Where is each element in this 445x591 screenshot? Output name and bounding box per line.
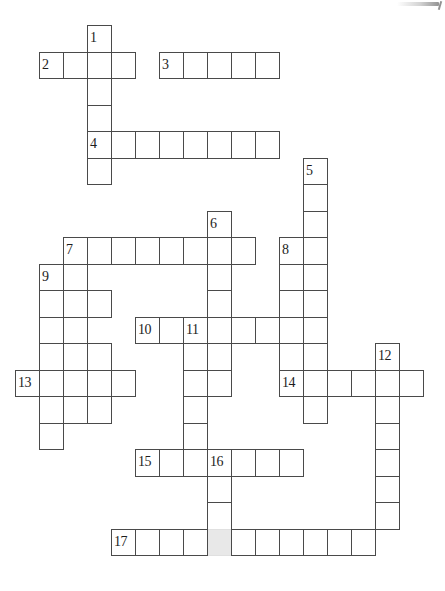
crossword-cell[interactable] xyxy=(63,52,88,80)
crossword-cell[interactable] xyxy=(183,343,208,371)
crossword-cell[interactable] xyxy=(207,529,232,557)
crossword-cell[interactable] xyxy=(231,317,256,345)
crossword-cell[interactable] xyxy=(375,476,400,504)
crossword-cell-start-8[interactable]: 8 xyxy=(279,237,304,265)
crossword-cell[interactable] xyxy=(207,502,232,530)
crossword-cell[interactable] xyxy=(159,449,184,477)
crossword-cell[interactable] xyxy=(231,131,256,159)
crossword-cell[interactable] xyxy=(207,237,232,265)
crossword-cell[interactable] xyxy=(375,449,400,477)
crossword-cell-start-10[interactable]: 10 xyxy=(135,317,160,345)
crossword-cell[interactable] xyxy=(39,343,64,371)
crossword-cell[interactable] xyxy=(135,529,160,557)
crossword-cell[interactable] xyxy=(231,529,256,557)
crossword-cell[interactable] xyxy=(231,449,256,477)
crossword-cell[interactable] xyxy=(39,290,64,318)
crossword-cell[interactable] xyxy=(159,529,184,557)
crossword-cell[interactable] xyxy=(63,264,88,292)
crossword-cell[interactable] xyxy=(303,370,328,398)
crossword-cell[interactable] xyxy=(303,290,328,318)
crossword-cell[interactable] xyxy=(111,237,136,265)
crossword-cell[interactable] xyxy=(375,423,400,451)
crossword-cell[interactable] xyxy=(63,317,88,345)
crossword-cell-start-5[interactable]: 5 xyxy=(303,158,328,186)
crossword-cell[interactable] xyxy=(207,290,232,318)
crossword-cell[interactable] xyxy=(63,396,88,424)
crossword-cell-start-9[interactable]: 9 xyxy=(39,264,64,292)
crossword-cell-start-4[interactable]: 4 xyxy=(87,131,112,159)
crossword-cell[interactable] xyxy=(279,264,304,292)
crossword-cell-start-14[interactable]: 14 xyxy=(279,370,304,398)
crossword-cell[interactable] xyxy=(303,237,328,265)
crossword-cell[interactable] xyxy=(207,476,232,504)
crossword-cell[interactable] xyxy=(183,237,208,265)
crossword-cell[interactable] xyxy=(39,423,64,451)
crossword-cell[interactable] xyxy=(231,52,256,80)
crossword-cell[interactable] xyxy=(303,343,328,371)
crossword-cell-start-15[interactable]: 15 xyxy=(135,449,160,477)
crossword-cell[interactable] xyxy=(279,317,304,345)
crossword-cell[interactable] xyxy=(39,370,64,398)
crossword-cell[interactable] xyxy=(183,396,208,424)
crossword-cell[interactable] xyxy=(87,78,112,106)
crossword-cell[interactable] xyxy=(231,237,256,265)
crossword-cell-start-12[interactable]: 12 xyxy=(375,343,400,371)
crossword-cell[interactable] xyxy=(207,343,232,371)
crossword-cell[interactable] xyxy=(303,264,328,292)
crossword-cell[interactable] xyxy=(207,317,232,345)
crossword-cell[interactable] xyxy=(63,290,88,318)
crossword-cell[interactable] xyxy=(303,184,328,212)
crossword-cell-start-11[interactable]: 11 xyxy=(183,317,208,345)
crossword-cell[interactable] xyxy=(87,52,112,80)
crossword-cell[interactable] xyxy=(207,370,232,398)
crossword-cell[interactable] xyxy=(87,158,112,186)
crossword-cell[interactable] xyxy=(351,529,376,557)
crossword-cell[interactable] xyxy=(279,529,304,557)
crossword-cell[interactable] xyxy=(135,131,160,159)
crossword-cell[interactable] xyxy=(303,396,328,424)
crossword-cell[interactable] xyxy=(87,290,112,318)
crossword-cell[interactable] xyxy=(39,317,64,345)
crossword-cell[interactable] xyxy=(327,529,352,557)
crossword-cell[interactable] xyxy=(399,370,424,398)
crossword-cell[interactable] xyxy=(207,131,232,159)
crossword-cell[interactable] xyxy=(111,370,136,398)
crossword-cell[interactable] xyxy=(159,317,184,345)
crossword-cell[interactable] xyxy=(375,396,400,424)
crossword-cell[interactable] xyxy=(207,264,232,292)
crossword-cell[interactable] xyxy=(255,131,280,159)
crossword-cell[interactable] xyxy=(159,131,184,159)
crossword-cell[interactable] xyxy=(303,211,328,239)
crossword-cell[interactable] xyxy=(87,370,112,398)
crossword-cell[interactable] xyxy=(375,502,400,530)
crossword-cell[interactable] xyxy=(111,131,136,159)
crossword-cell[interactable] xyxy=(183,449,208,477)
crossword-cell[interactable] xyxy=(159,237,184,265)
crossword-cell[interactable] xyxy=(135,237,160,265)
crossword-cell[interactable] xyxy=(279,449,304,477)
crossword-cell[interactable] xyxy=(39,396,64,424)
crossword-cell[interactable] xyxy=(87,237,112,265)
crossword-cell[interactable] xyxy=(207,52,232,80)
crossword-cell[interactable] xyxy=(255,529,280,557)
crossword-cell[interactable] xyxy=(303,529,328,557)
crossword-cell-start-17[interactable]: 17 xyxy=(111,529,136,557)
crossword-cell[interactable] xyxy=(255,449,280,477)
crossword-cell[interactable] xyxy=(375,370,400,398)
crossword-cell[interactable] xyxy=(183,370,208,398)
crossword-cell[interactable] xyxy=(279,290,304,318)
crossword-cell[interactable] xyxy=(183,423,208,451)
crossword-cell[interactable] xyxy=(255,52,280,80)
crossword-cell[interactable] xyxy=(255,317,280,345)
crossword-cell[interactable] xyxy=(87,396,112,424)
crossword-cell-start-1[interactable]: 1 xyxy=(87,25,112,53)
crossword-cell[interactable] xyxy=(183,52,208,80)
crossword-cell-start-3[interactable]: 3 xyxy=(159,52,184,80)
crossword-cell[interactable] xyxy=(351,370,376,398)
crossword-cell[interactable] xyxy=(303,317,328,345)
crossword-cell[interactable] xyxy=(183,131,208,159)
crossword-cell-start-16[interactable]: 16 xyxy=(207,449,232,477)
crossword-cell-start-2[interactable]: 2 xyxy=(39,52,64,80)
crossword-cell-start-7[interactable]: 7 xyxy=(63,237,88,265)
crossword-cell[interactable] xyxy=(327,370,352,398)
